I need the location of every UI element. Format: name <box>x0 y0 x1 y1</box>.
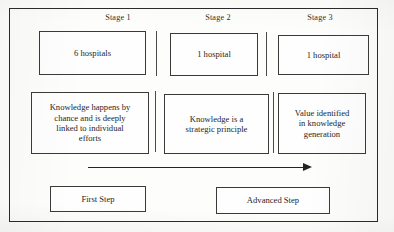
box-hospitals-stage-1-text: 6 hospitals <box>43 48 142 58</box>
box-description-stage-3-text: Value identified in knowledge generation <box>282 108 362 139</box>
box-step-first-text: First Step <box>54 194 142 204</box>
box-step-first: First Step <box>50 186 146 212</box>
box-hospitals-stage-3-text: 1 hospital <box>282 50 365 60</box>
box-hospitals-stage-1: 6 hospitals <box>39 31 146 75</box>
box-description-stage-3: Value identified in knowledge generation <box>278 93 366 154</box>
box-hospitals-stage-2-text: 1 hospital <box>174 49 254 59</box>
column-divider-1-row-1 <box>156 31 157 76</box>
box-description-stage-1-text: Knowledge happens by chance and is deepl… <box>35 102 145 144</box>
stage-label-2: Stage 2 <box>178 13 258 22</box>
box-description-stage-1: Knowledge happens by chance and is deepl… <box>31 92 149 154</box>
column-divider-2-row-1 <box>266 32 267 76</box>
column-divider-2-row-2 <box>273 92 274 153</box>
stage-label-1: Stage 1 <box>78 13 158 22</box>
column-divider-1-row-2 <box>155 91 156 152</box>
progression-arrow-line <box>88 167 303 168</box>
progression-arrow-head-icon <box>303 163 312 171</box>
stage-label-3: Stage 3 <box>280 13 360 22</box>
figure-canvas: Stage 1 Stage 2 Stage 3 6 hospitals 1 ho… <box>0 0 394 232</box>
box-step-advanced-text: Advanced Step <box>220 195 326 205</box>
box-hospitals-stage-3: 1 hospital <box>278 35 369 75</box>
box-hospitals-stage-2: 1 hospital <box>170 33 258 76</box>
box-step-advanced: Advanced Step <box>216 187 330 214</box>
box-description-stage-2-text: Knowledge is a strategic principle <box>168 114 265 135</box>
progression-arrow <box>88 162 312 174</box>
box-description-stage-2: Knowledge is a strategic principle <box>164 94 269 154</box>
